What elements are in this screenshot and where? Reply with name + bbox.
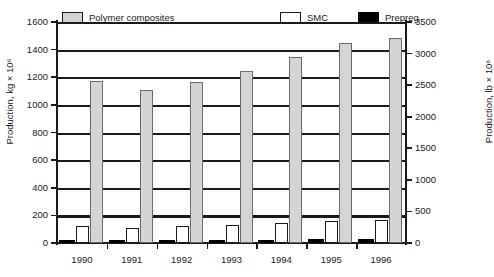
y-tick-label-left-800: 800 bbox=[2, 128, 48, 138]
x-tick-4 bbox=[256, 243, 258, 249]
bar-group-1996 bbox=[356, 22, 406, 243]
plot-area bbox=[57, 22, 406, 243]
legend-label-smc: SMC bbox=[307, 13, 328, 23]
y-tick-label-right-3500: 3500 bbox=[415, 17, 455, 27]
bar-polymer-composites-1994 bbox=[289, 57, 302, 243]
y-tick-label-right-1000: 1000 bbox=[415, 175, 455, 185]
y-tick-right-2000 bbox=[406, 116, 412, 118]
bar-polymer-composites-1995 bbox=[339, 43, 352, 243]
y-tick-right-500 bbox=[406, 211, 412, 213]
x-tick-1 bbox=[107, 243, 109, 249]
bar-smc-1992 bbox=[176, 226, 189, 243]
bar-smc-1991 bbox=[126, 228, 139, 243]
y-tick-label-left-200: 200 bbox=[2, 210, 48, 220]
y-tick-label-left-1400: 1400 bbox=[2, 45, 48, 55]
y-tick-right-1500 bbox=[406, 147, 412, 149]
y-tick-label-left-1000: 1000 bbox=[2, 100, 48, 110]
y-tick-label-right-2500: 2500 bbox=[415, 80, 455, 90]
bar-polymer-composites-1993 bbox=[240, 71, 253, 243]
bar-prepreg-1994 bbox=[258, 240, 274, 243]
y-tick-right-3000 bbox=[406, 53, 412, 55]
y-tick-label-right-3000: 3000 bbox=[415, 49, 455, 59]
bar-group-1991 bbox=[107, 22, 157, 243]
y-tick-right-3500 bbox=[406, 21, 412, 23]
bar-smc-1993 bbox=[226, 225, 239, 243]
bar-prepreg-1993 bbox=[209, 240, 225, 243]
bar-polymer-composites-1992 bbox=[190, 82, 203, 243]
x-tick-label-1996: 1996 bbox=[353, 255, 409, 265]
legend-label-polymer-composites: Polymer composites bbox=[89, 13, 175, 23]
y-tick-label-right-0: 0 bbox=[415, 238, 455, 248]
x-tick-label-1992: 1992 bbox=[154, 255, 210, 265]
bar-polymer-composites-1991 bbox=[140, 90, 153, 243]
x-tick-6 bbox=[356, 243, 358, 249]
y-tick-label-right-2000: 2000 bbox=[415, 112, 455, 122]
y-tick-label-left-600: 600 bbox=[2, 155, 48, 165]
bar-smc-1996 bbox=[375, 220, 388, 243]
bar-group-1995 bbox=[306, 22, 356, 243]
bar-smc-1995 bbox=[325, 221, 338, 243]
bar-smc-1990 bbox=[76, 226, 89, 243]
x-tick-label-1995: 1995 bbox=[303, 255, 359, 265]
x-tick-label-1993: 1993 bbox=[204, 255, 260, 265]
bar-polymer-composites-1990 bbox=[90, 81, 103, 243]
bar-group-1992 bbox=[157, 22, 207, 243]
y-tick-right-1000 bbox=[406, 179, 412, 181]
bar-group-1994 bbox=[256, 22, 306, 243]
x-tick-label-1991: 1991 bbox=[104, 255, 160, 265]
y-tick-right-0 bbox=[406, 242, 412, 244]
bar-smc-1994 bbox=[275, 223, 288, 243]
x-tick-5 bbox=[306, 243, 308, 249]
y-tick-label-right-1500: 1500 bbox=[415, 143, 455, 153]
bar-prepreg-1992 bbox=[159, 240, 175, 243]
legend-label-prepreg: Prepreg bbox=[385, 13, 419, 23]
y-tick-label-left-0: 0 bbox=[2, 238, 48, 248]
y-tick-label-left-1600: 1600 bbox=[2, 17, 48, 27]
bar-prepreg-1990 bbox=[59, 240, 75, 243]
y-tick-label-left-400: 400 bbox=[2, 183, 48, 193]
y-tick-right-2500 bbox=[406, 84, 412, 86]
bar-prepreg-1995 bbox=[308, 239, 324, 243]
x-tick-2 bbox=[157, 243, 159, 249]
x-tick-label-1994: 1994 bbox=[253, 255, 309, 265]
bar-prepreg-1991 bbox=[109, 240, 125, 243]
bar-polymer-composites-1996 bbox=[389, 38, 402, 243]
y-tick-label-right-500: 500 bbox=[415, 206, 455, 216]
bar-group-1993 bbox=[207, 22, 257, 243]
y-axis-right-title: Production, lb × 10⁶ bbox=[483, 27, 494, 177]
y-tick-label-left-1200: 1200 bbox=[2, 72, 48, 82]
x-tick-3 bbox=[207, 243, 209, 249]
bar-group-1990 bbox=[57, 22, 107, 243]
x-tick-label-1990: 1990 bbox=[54, 255, 110, 265]
bar-prepreg-1996 bbox=[358, 239, 374, 243]
